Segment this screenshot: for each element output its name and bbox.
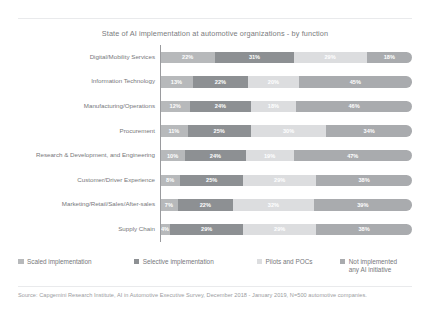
- legend-item[interactable]: Not implemented any AI initiative: [340, 258, 412, 274]
- bar-segment: 22%: [178, 199, 233, 211]
- bar-segment: 29%: [243, 175, 316, 187]
- bar-row: Manufacturing/Operations12%24%18%46%: [18, 94, 412, 119]
- bar-segment-label: 29%: [274, 226, 285, 232]
- bar-segment-label: 25%: [214, 128, 225, 134]
- bar-segment: 7%: [160, 199, 178, 211]
- chart-figure: State of AI implementation at automotive…: [0, 0, 430, 316]
- bar-segment: 12%: [160, 101, 190, 113]
- bar-segment: 34%: [326, 125, 412, 137]
- chart-title: State of AI implementation at automotive…: [0, 29, 430, 38]
- legend-item[interactable]: Pilots and POCs: [257, 258, 340, 266]
- bar-segment: 24%: [190, 101, 250, 113]
- bar-segment-label: 22%: [215, 79, 226, 85]
- bar-segment-label: 46%: [348, 103, 359, 109]
- bar-segment: 13%: [160, 76, 193, 88]
- bar-segment-label: 39%: [357, 202, 368, 208]
- legend-label: Not implemented any AI initiative: [349, 258, 397, 274]
- stacked-bar: 10%24%19%47%: [160, 150, 412, 162]
- bar-segment: 4%: [160, 224, 170, 236]
- legend-label: Selective implementation: [143, 258, 214, 266]
- bar-segment: 29%: [170, 224, 243, 236]
- bar-segment: 29%: [294, 52, 367, 64]
- bar-segment-label: 31%: [249, 54, 260, 60]
- bar-segment-label: 30%: [283, 128, 294, 134]
- source-note: Source: Capgemini Research Institute, AI…: [18, 292, 418, 298]
- bar-segment-label: 13%: [171, 79, 182, 85]
- bar-segment: 45%: [299, 76, 412, 88]
- bar-segment: 30%: [251, 125, 327, 137]
- legend-item[interactable]: Scaled implementation: [18, 258, 134, 266]
- category-label: Customer/Driver Experience: [18, 177, 160, 184]
- stacked-bar: 7%22%32%39%: [160, 199, 412, 211]
- value-axis-line: [160, 45, 161, 70]
- category-label: Digital/Mobility Services: [18, 54, 160, 61]
- category-label: Information Technology: [18, 78, 160, 85]
- stacked-bar: 8%25%29%38%: [160, 175, 412, 187]
- legend-label: Scaled implementation: [27, 258, 92, 266]
- stacked-bar: 12%24%18%46%: [160, 101, 412, 113]
- bar-segment-label: 22%: [182, 54, 193, 60]
- bar-segment-label: 47%: [347, 153, 358, 159]
- category-label: Procurement: [18, 128, 160, 135]
- bar-segment-label: 8%: [166, 177, 174, 183]
- bar-row: Customer/Driver Experience8%25%29%38%: [18, 168, 412, 193]
- value-axis-line: [160, 143, 161, 168]
- bar-segment-label: 29%: [274, 177, 285, 183]
- bar-segment: 8%: [160, 175, 180, 187]
- value-axis-line: [160, 119, 161, 144]
- bar-segment-label: 4%: [161, 226, 169, 232]
- bar-segment-label: 7%: [165, 202, 173, 208]
- bar-segment: 25%: [180, 175, 243, 187]
- legend-swatch-icon: [18, 259, 24, 265]
- bar-segment-label: 19%: [264, 153, 275, 159]
- legend-label: Pilots and POCs: [266, 258, 313, 266]
- bar-row: Information Technology13%22%20%45%: [18, 70, 412, 95]
- bar-segment: 20%: [248, 76, 298, 88]
- stacked-bar: 13%22%20%45%: [160, 76, 412, 88]
- bar-segment: 22%: [160, 52, 215, 64]
- stacked-bar: 22%31%29%18%: [160, 52, 412, 64]
- bar-segment-label: 24%: [215, 103, 226, 109]
- bar-segment: 22%: [193, 76, 248, 88]
- stacked-bar: 4%29%29%38%: [160, 224, 412, 236]
- value-axis-line: [160, 217, 161, 242]
- bar-segment-label: 18%: [268, 103, 279, 109]
- bar-segment-label: 18%: [384, 54, 395, 60]
- bar-segment: 18%: [367, 52, 412, 64]
- legend-swatch-icon: [257, 259, 263, 265]
- bar-segment-label: 29%: [324, 54, 335, 60]
- value-axis-line: [160, 94, 161, 119]
- value-axis-line: [160, 193, 161, 218]
- bar-segment: 38%: [316, 175, 412, 187]
- bar-segment-label: 32%: [268, 202, 279, 208]
- bar-segment-label: 11%: [168, 128, 179, 134]
- category-label: Research & Development, and Engineering: [18, 152, 160, 159]
- bar-segment-label: 24%: [210, 153, 221, 159]
- bar-segment: 31%: [215, 52, 293, 64]
- bar-segment-label: 22%: [200, 202, 211, 208]
- bar-segment: 47%: [294, 150, 412, 162]
- bar-segment: 39%: [314, 199, 412, 211]
- bar-segment: 18%: [251, 101, 296, 113]
- bar-rows: Digital/Mobility Services22%31%29%18%Inf…: [18, 45, 412, 242]
- bar-segment: 19%: [246, 150, 294, 162]
- bar-segment: 10%: [160, 150, 185, 162]
- legend-item[interactable]: Selective implementation: [134, 258, 257, 266]
- bar-segment: 11%: [160, 125, 188, 137]
- bar-row: Procurement11%25%30%34%: [18, 119, 412, 144]
- bar-row: Research & Development, and Engineering1…: [18, 143, 412, 168]
- top-divider: [18, 18, 412, 19]
- bar-segment-label: 12%: [170, 103, 181, 109]
- value-axis-line: [160, 168, 161, 193]
- legend-swatch-icon: [134, 259, 140, 265]
- category-label: Marketing/Retail/Sales/After-sales: [18, 201, 160, 208]
- bar-segment-label: 34%: [364, 128, 375, 134]
- bar-segment-label: 38%: [359, 226, 370, 232]
- bar-row: Digital/Mobility Services22%31%29%18%: [18, 45, 412, 70]
- bar-segment-label: 10%: [167, 153, 178, 159]
- chart-legend: Scaled implementationSelective implement…: [18, 258, 412, 274]
- bar-segment: 38%: [316, 224, 412, 236]
- bar-segment: 29%: [243, 224, 316, 236]
- category-label: Manufacturing/Operations: [18, 103, 160, 110]
- bar-row: Marketing/Retail/Sales/After-sales7%22%3…: [18, 193, 412, 218]
